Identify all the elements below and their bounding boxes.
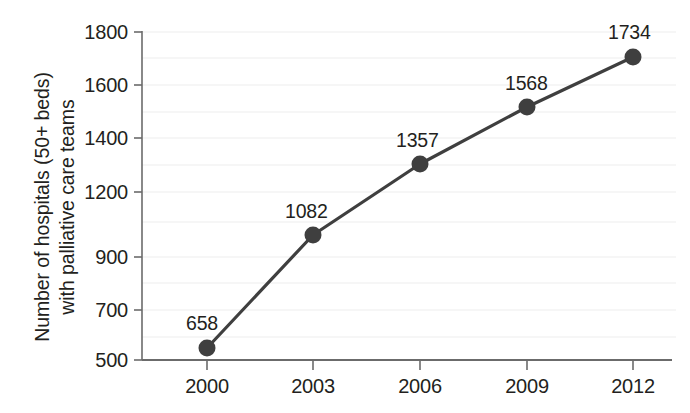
data-point-marker[interactable]	[519, 99, 536, 116]
data-point-marker[interactable]	[412, 156, 429, 173]
data-point-marker[interactable]	[199, 340, 216, 357]
series-line	[207, 57, 633, 348]
data-point-marker[interactable]	[625, 49, 642, 66]
data-point-label: 1082	[285, 201, 328, 221]
y-axis-ticks	[134, 32, 142, 360]
gridlines	[142, 32, 676, 337]
data-point-label: 658	[186, 313, 218, 333]
chart-figure: Number of hospitals (50+ beds) with pall…	[0, 0, 690, 413]
plot-area	[0, 0, 690, 413]
data-point-marker[interactable]	[305, 227, 322, 244]
data-point-label: 1568	[505, 73, 548, 93]
x-axis-ticks	[207, 360, 633, 370]
data-point-label: 1357	[396, 130, 439, 150]
data-point-label: 1734	[608, 22, 651, 42]
